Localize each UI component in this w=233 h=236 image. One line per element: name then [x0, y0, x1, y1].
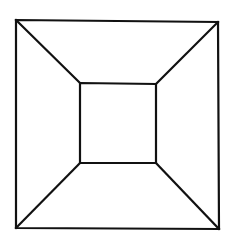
- background: [0, 0, 233, 236]
- square-tunnel-diagram: [0, 0, 233, 236]
